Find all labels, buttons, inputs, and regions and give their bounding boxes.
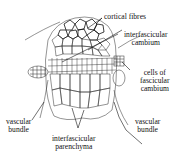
label-line: cambium xyxy=(140,85,170,93)
label-line: cambium xyxy=(124,39,167,47)
label-line: bundle xyxy=(135,126,160,134)
label-cells-of-fascicular-cambium: cells of fascicular cambium xyxy=(140,69,170,94)
label-vascular-bundle-right: vascular bundle xyxy=(135,118,160,134)
label-interfascicular-parenchyma: interfascicular parenchyma xyxy=(52,135,95,151)
label-line: cortical fibres xyxy=(104,13,146,21)
label-cortical-fibres: cortical fibres xyxy=(104,13,146,21)
label-interfascicular-cambium: interfascicular cambium xyxy=(124,31,167,47)
label-line: parenchyma xyxy=(52,143,95,151)
label-line: bundle xyxy=(6,126,31,134)
label-vascular-bundle-left: vascular bundle xyxy=(6,118,31,134)
stem-section-diagram: cortical fibres interfascicular cambium … xyxy=(0,0,187,160)
